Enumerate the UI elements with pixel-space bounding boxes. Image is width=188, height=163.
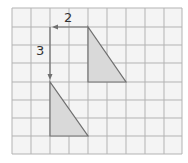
horizontal-shift-label: 2 bbox=[64, 10, 72, 25]
translation-diagram: 2 3 bbox=[0, 0, 188, 163]
vertical-shift-label: 3 bbox=[36, 43, 44, 58]
